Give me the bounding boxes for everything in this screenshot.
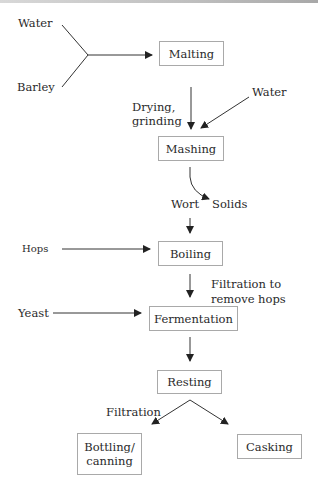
arrow-water-to-mashing — [201, 97, 249, 128]
step-bottling-label-line2: canning — [86, 454, 133, 468]
input-water-2: Water — [252, 85, 287, 99]
step-casking-label: Casking — [246, 440, 293, 454]
step-casking: Casking — [237, 434, 302, 459]
step-resting: Resting — [157, 370, 222, 394]
step-resting-label: Resting — [167, 375, 211, 389]
edge-label-remove-hops: remove hops — [211, 292, 286, 306]
edge-label-filtration-to: Filtration to — [211, 277, 281, 291]
arrow-resting-to-casking — [190, 400, 228, 424]
step-fermentation-label: Fermentation — [154, 312, 233, 326]
input-hops: Hops — [22, 242, 48, 256]
water-merge-line — [62, 25, 88, 55]
edge-label-filtration: Filtration — [106, 405, 161, 419]
step-mashing-label: Mashing — [166, 142, 216, 156]
step-boiling: Boiling — [158, 241, 223, 266]
arrow-mashing-to-solids — [190, 167, 209, 199]
edge-label-wort: Wort — [171, 197, 199, 211]
step-malting: Malting — [159, 41, 224, 66]
step-bottling-canning: Bottling/ canning — [77, 433, 142, 475]
step-malting-label: Malting — [169, 47, 214, 61]
edge-label-drying: Drying, — [132, 100, 175, 114]
step-mashing: Mashing — [158, 136, 224, 161]
edge-label-grinding: grinding — [132, 114, 182, 128]
step-bottling-label-line1: Bottling/ — [84, 440, 135, 454]
input-water-1: Water — [18, 16, 53, 30]
edge-label-solids: Solids — [212, 197, 247, 211]
barley-merge-line — [62, 55, 88, 87]
step-fermentation: Fermentation — [149, 306, 238, 331]
step-boiling-label: Boiling — [170, 247, 211, 261]
input-yeast: Yeast — [18, 306, 49, 320]
input-barley: Barley — [17, 80, 55, 94]
